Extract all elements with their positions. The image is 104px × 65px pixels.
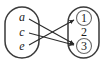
mapping-diagram-figure: a c e 1 2 3	[0, 0, 104, 65]
diagram-canvas: a c e 1 2 3	[0, 0, 104, 65]
domain-element-c: c	[19, 25, 25, 39]
domain-element-a: a	[19, 10, 25, 24]
codomain-element-3: 3	[81, 39, 87, 53]
domain-element-e: e	[19, 39, 25, 53]
codomain-element-2: 2	[81, 25, 87, 39]
codomain-element-1: 1	[81, 11, 87, 25]
